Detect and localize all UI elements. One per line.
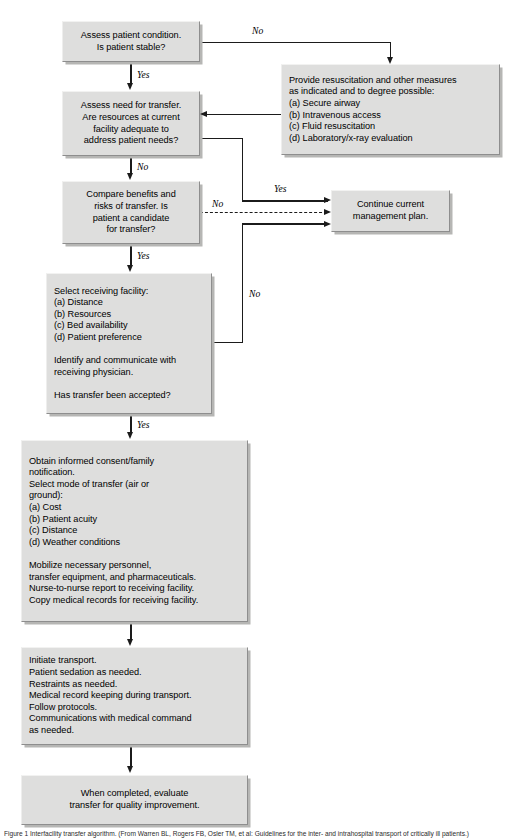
edge-no-accepted-h2 <box>242 223 328 224</box>
edge-no-need-arrowhead <box>127 173 133 180</box>
edge-label-yes-accepted: Yes <box>137 419 149 430</box>
edge-yes-adequate-h1 <box>200 138 243 139</box>
node-initiate-transport: Initiate transport. Patient sedation as … <box>21 647 248 745</box>
edge-transport-to-evaluate-vertical <box>130 745 131 767</box>
edge-yes-adequate-vertical <box>242 138 243 202</box>
edge-consent-to-transport-arrowhead <box>127 639 133 646</box>
edge-yes-candidate-vertical <box>130 244 131 266</box>
node-assess-patient-condition: Assess patient condition. Is patient sta… <box>62 21 200 62</box>
node-select-receiving-facility: Select receiving facility: (a) Distance … <box>46 273 212 414</box>
edge-yes-accepted-vertical <box>130 414 131 433</box>
edge-yes-adequate-arrowhead <box>324 197 331 203</box>
edge-yes-adequate-h2 <box>242 200 328 201</box>
edge-resuscitation-return-horizontal <box>207 114 281 115</box>
node-provide-resuscitation-text: Provide resuscitation and other measures… <box>282 75 499 145</box>
edge-label-no-candidate: No <box>212 198 223 209</box>
flowchart-canvas: Assess patient condition. Is patient sta… <box>0 0 523 839</box>
node-continue-current-plan: Continue current management plan. <box>331 190 450 232</box>
edge-yes-candidate-arrowhead <box>127 265 133 272</box>
edge-yes-accepted-arrowhead <box>127 432 133 439</box>
edge-label-no-need: No <box>137 161 148 172</box>
edge-yes-stable-vertical <box>130 62 131 84</box>
edge-label-yes-stable: Yes <box>137 69 149 80</box>
edge-no-candidate-dashed <box>200 212 327 213</box>
edge-no-stable-arrowhead <box>387 57 393 64</box>
node-compare-benefits-risks: Compare benefits and risks of transfer. … <box>62 181 200 244</box>
edge-no-accepted-vertical <box>242 223 243 343</box>
edge-label-yes-candidate: Yes <box>137 250 149 261</box>
edge-no-candidate-arrowhead <box>324 209 331 215</box>
edge-consent-to-transport-vertical <box>130 622 131 640</box>
node-compare-benefits-risks-text: Compare benefits and risks of transfer. … <box>63 189 199 235</box>
edge-no-stable-vertical <box>390 42 391 58</box>
edge-no-need-vertical <box>130 156 131 174</box>
node-select-receiving-facility-text: Select receiving facility: (a) Distance … <box>47 286 211 402</box>
edge-no-stable-horizontal <box>200 42 391 43</box>
node-obtain-consent-select-mode-text: Obtain informed consent/family notificat… <box>22 456 247 607</box>
edge-resuscitation-return-arrowhead <box>200 111 207 117</box>
edge-no-accepted-h1 <box>212 342 243 343</box>
node-assess-patient-condition-text: Assess patient condition. Is patient sta… <box>63 30 199 53</box>
edge-yes-stable-arrowhead <box>127 83 133 90</box>
node-assess-need-for-transfer: Assess need for transfer. Are resources … <box>62 91 200 156</box>
node-initiate-transport-text: Initiate transport. Patient sedation as … <box>22 655 247 736</box>
node-assess-need-for-transfer-text: Assess need for transfer. Are resources … <box>63 100 199 146</box>
node-evaluate-quality-improvement-text: When completed, evaluate transfer for qu… <box>22 788 247 811</box>
edge-label-no-accepted: No <box>249 288 260 299</box>
figure-caption: Figure 1 Interfacility transfer algorith… <box>4 830 519 838</box>
node-continue-current-plan-text: Continue current management plan. <box>332 199 449 222</box>
edge-label-no-stable: No <box>252 25 263 36</box>
edge-transport-to-evaluate-arrowhead <box>127 766 133 773</box>
edge-no-accepted-arrowhead <box>324 221 331 227</box>
node-obtain-consent-select-mode: Obtain informed consent/family notificat… <box>21 440 248 622</box>
edge-label-yes-adequate: Yes <box>274 183 286 194</box>
node-evaluate-quality-improvement: When completed, evaluate transfer for qu… <box>21 775 248 825</box>
node-provide-resuscitation: Provide resuscitation and other measures… <box>281 64 500 155</box>
